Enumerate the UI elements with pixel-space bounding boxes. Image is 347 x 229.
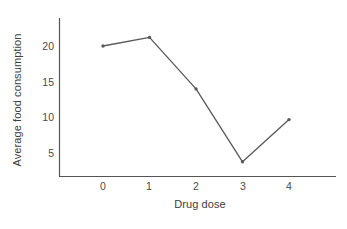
x-tick-label-1: 1 <box>146 180 152 192</box>
plot-area: 20 15 10 5 0 1 2 3 4 <box>0 0 347 229</box>
y-tick-label-20: 20 <box>42 40 54 52</box>
y-tick-label-10: 10 <box>42 111 54 123</box>
y-tick-label-15: 15 <box>42 76 54 88</box>
x-tick-label-3: 3 <box>240 180 246 192</box>
chart-container: Average food consumption Drug dose 20 15… <box>0 0 347 229</box>
data-point-2 <box>194 87 197 90</box>
data-point-1 <box>148 36 151 39</box>
x-tick-label-2: 2 <box>193 180 199 192</box>
data-series-line <box>103 37 289 161</box>
x-tick-label-0: 0 <box>100 180 106 192</box>
data-point-0 <box>101 44 104 47</box>
data-point-4 <box>287 118 290 121</box>
x-tick-label-4: 4 <box>286 180 292 192</box>
y-tick-label-5: 5 <box>48 147 54 159</box>
data-point-3 <box>241 160 244 163</box>
